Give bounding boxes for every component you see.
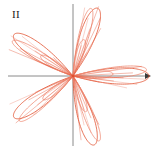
rose-radial-strand	[9, 50, 73, 76]
rose-radial-strand	[11, 36, 73, 76]
rose-radial-strand	[54, 58, 73, 76]
rose-radial-strand	[22, 37, 73, 77]
rose-outer-petal	[13, 33, 73, 76]
rose-outer-petal	[73, 76, 97, 145]
origin-point	[72, 75, 75, 78]
polar-rose-figure: II	[0, 0, 156, 149]
polar-plot-canvas	[0, 0, 156, 149]
rose-radial-strand	[10, 76, 73, 104]
rose-radial-strand	[20, 49, 73, 76]
rose-radial-strand	[16, 76, 73, 123]
figure-label: II	[12, 8, 20, 20]
